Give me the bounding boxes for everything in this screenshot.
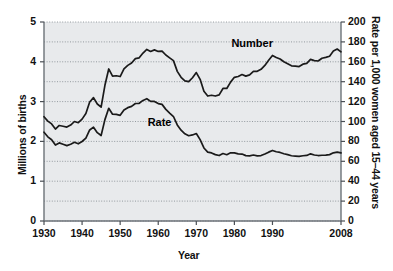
x-tick-1940: 1940	[62, 227, 102, 239]
y-tick-right-180: 180	[348, 35, 372, 47]
y-tick-right-0: 0	[348, 214, 372, 226]
series-label-rate: Rate	[148, 116, 172, 128]
y-tick-right-20: 20	[348, 194, 372, 206]
y-tick-right-140: 140	[348, 75, 372, 87]
x-tick-1960: 1960	[138, 227, 178, 239]
y-tick-right-100: 100	[348, 115, 372, 127]
x-tick-2008: 2008	[321, 227, 361, 239]
x-tick-1980: 1980	[214, 227, 254, 239]
series-label-number: Number	[231, 37, 273, 49]
y-tick-right-40: 40	[348, 174, 372, 186]
x-tick-1930: 1930	[24, 227, 64, 239]
y-tick-left-4: 4	[20, 55, 36, 67]
x-tick-1970: 1970	[176, 227, 216, 239]
y-tick-left-0: 0	[20, 214, 36, 226]
births-chart: Millions of births Rate per 1,000 women …	[0, 0, 393, 271]
x-tick-1990: 1990	[252, 227, 292, 239]
y-tick-right-200: 200	[348, 15, 372, 27]
y-tick-right-80: 80	[348, 134, 372, 146]
y-tick-left-5: 5	[20, 15, 36, 27]
y-tick-left-3: 3	[20, 95, 36, 107]
x-tick-1950: 1950	[100, 227, 140, 239]
y-tick-right-160: 160	[348, 55, 372, 67]
y-tick-left-2: 2	[20, 134, 36, 146]
y-tick-right-60: 60	[348, 154, 372, 166]
y-tick-right-120: 120	[348, 95, 372, 107]
y-tick-left-1: 1	[20, 174, 36, 186]
x-axis-title: Year	[178, 249, 199, 261]
